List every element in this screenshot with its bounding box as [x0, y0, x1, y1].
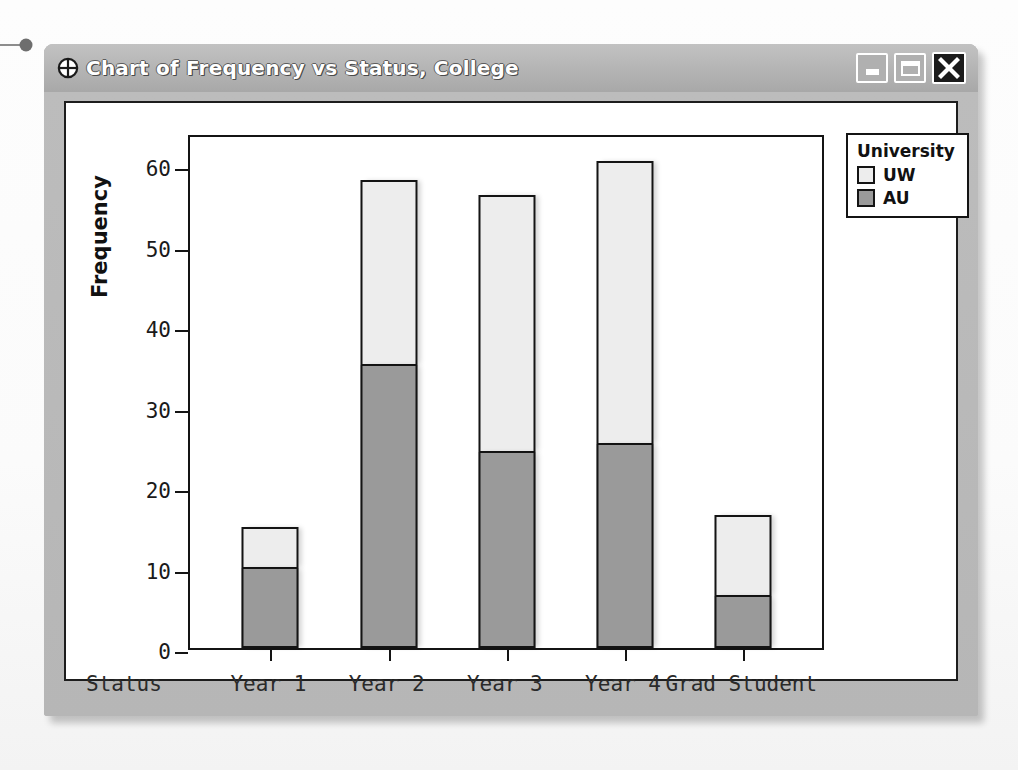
bar-segment-uw[interactable]	[597, 161, 654, 443]
bar-segment-uw[interactable]	[360, 180, 417, 364]
legend: University UWAU	[846, 133, 969, 218]
bar-stack[interactable]	[242, 527, 299, 648]
maximize-icon	[901, 61, 920, 76]
legend-label: AU	[883, 188, 909, 208]
legend-title: University	[857, 141, 955, 161]
legend-entry: UW	[857, 165, 955, 185]
legend-swatch	[857, 189, 875, 207]
y-tick	[175, 652, 188, 654]
bar-stack[interactable]	[597, 161, 654, 648]
bar-segment-au[interactable]	[242, 568, 299, 648]
y-tick	[175, 250, 188, 252]
maximize-button[interactable]	[894, 53, 926, 83]
x-axis-label: Year 4	[585, 672, 661, 696]
bar-segment-au[interactable]	[360, 365, 417, 648]
x-tick	[743, 648, 745, 661]
bar-segment-uw[interactable]	[715, 515, 772, 595]
bar-stack[interactable]	[360, 180, 417, 648]
legend-entries: UWAU	[857, 165, 955, 208]
x-tick	[270, 648, 272, 661]
y-tick-label: 50	[146, 238, 171, 262]
x-axis-label: Year 3	[467, 672, 543, 696]
minimize-icon	[866, 69, 879, 75]
y-tick-label: 60	[146, 157, 171, 181]
bar-stack[interactable]	[715, 515, 772, 648]
x-axis-label: Grad Student	[665, 672, 817, 696]
bar-segment-uw[interactable]	[478, 195, 535, 453]
y-tick-label: 0	[158, 640, 171, 664]
x-axis-label: Year 2	[349, 672, 425, 696]
window-title: Chart of Frequency vs Status, College	[86, 56, 519, 80]
y-tick	[175, 411, 188, 413]
y-tick	[175, 330, 188, 332]
window-body: Frequency 0102030405060 Status Year 1Yea…	[64, 101, 958, 681]
bar-segment-uw[interactable]	[242, 527, 299, 567]
y-tick	[175, 491, 188, 493]
bar-segment-au[interactable]	[597, 444, 654, 648]
x-axis-title: Status	[86, 672, 162, 696]
y-tick	[175, 572, 188, 574]
title-bar[interactable]: Chart of Frequency vs Status, College	[44, 44, 978, 92]
y-tick-label: 40	[146, 318, 171, 342]
bar-segment-au[interactable]	[715, 596, 772, 648]
x-tick	[389, 648, 391, 661]
bar-segment-au[interactable]	[478, 452, 535, 648]
y-tick-label: 20	[146, 479, 171, 503]
x-tick	[507, 648, 509, 661]
crosshair-icon	[57, 57, 79, 79]
y-axis-title: Frequency	[88, 272, 112, 298]
app-window: Chart of Frequency vs Status, College Fr…	[44, 44, 978, 716]
window-controls	[856, 52, 966, 84]
y-tick	[175, 169, 188, 171]
pin-artifact	[0, 38, 38, 52]
minimize-button[interactable]	[856, 53, 888, 83]
bar-stack[interactable]	[478, 195, 535, 648]
plot-frame: 0102030405060	[188, 135, 824, 650]
chart-area: Frequency 0102030405060 Status Year 1Yea…	[66, 103, 956, 679]
y-tick-label: 10	[146, 560, 171, 584]
close-button[interactable]	[932, 52, 966, 84]
legend-swatch	[857, 166, 875, 184]
close-icon	[938, 57, 960, 79]
x-axis-label: Year 1	[230, 672, 306, 696]
legend-label: UW	[883, 165, 916, 185]
x-tick	[625, 648, 627, 661]
y-tick-label: 30	[146, 399, 171, 423]
legend-entry: AU	[857, 188, 955, 208]
